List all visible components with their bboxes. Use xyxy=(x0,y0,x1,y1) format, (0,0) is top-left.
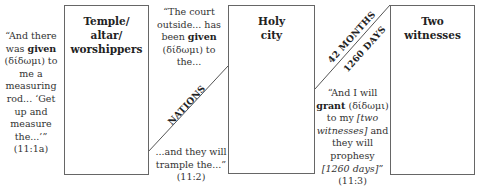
quote-11-2-top: “The court outside... has been given (δί… xyxy=(153,6,225,69)
quote-11-1a: “And there was given (δίδωμι) to me a me… xyxy=(0,30,62,156)
box-temple: Temple/ altar/ worshippers xyxy=(64,5,149,175)
box-title-temple: Temple/ altar/ worshippers xyxy=(65,14,148,56)
box-title-two-witnesses: Two witnesses xyxy=(391,14,474,42)
quote-11-2-bottom: ...and they will trample the...” (11:2) xyxy=(155,146,227,184)
quote-11-3: “And I will grant (δίδωμι) to my [two wi… xyxy=(315,87,390,188)
box-title-holy-city: Holy city xyxy=(229,14,314,42)
box-two-witnesses: Two witnesses xyxy=(390,5,475,175)
box-holy-city: Holy city xyxy=(228,5,315,174)
